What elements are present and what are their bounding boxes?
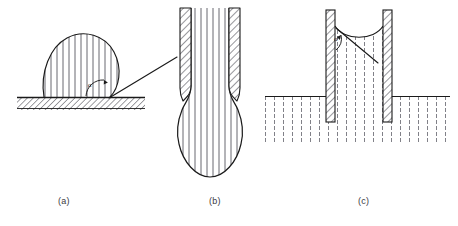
solid-substrate	[17, 97, 145, 110]
liquid-vertical-hatching	[263, 24, 453, 144]
contact-angle-symbol-a: α	[88, 81, 92, 89]
contact-angle-symbol-c: α	[334, 35, 338, 43]
panel-caption-b: (b)	[209, 196, 221, 206]
capillary-tube-left-wall	[326, 10, 335, 122]
liquid-drop	[40, 30, 124, 100]
panel-a-sessile-drop	[17, 30, 177, 110]
panel-c-capillary-rise	[263, 10, 453, 144]
figure-container: α α (a) (b) (c)	[0, 0, 458, 226]
capillary-tube-right-wall	[383, 10, 392, 122]
panel-b-pendant-drop	[172, 6, 248, 182]
contact-angle-figure	[0, 0, 458, 226]
panel-caption-c: (c)	[358, 196, 369, 206]
panel-caption-a: (a)	[58, 196, 70, 206]
capillary-liquid	[263, 24, 453, 144]
drop-vertical-hatching	[40, 30, 124, 100]
